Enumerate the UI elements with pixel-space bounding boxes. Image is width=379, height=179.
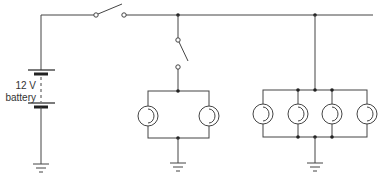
branch-switch (176, 15, 188, 91)
lamp-icon (357, 104, 377, 124)
lamp-icon (288, 104, 308, 124)
lamp-icon (138, 106, 158, 126)
battery-label: 12 V battery (0, 80, 36, 104)
main-switch (94, 4, 126, 17)
lamp-icon (253, 104, 273, 124)
lamp-icon (322, 104, 342, 124)
battery-name-label: battery (0, 92, 36, 104)
ground-icon-right-group (307, 163, 323, 171)
schematic-svg (0, 0, 379, 179)
ground-icon-left-group (170, 163, 186, 171)
battery-branch (28, 15, 96, 164)
ground-icon-battery (33, 164, 49, 172)
left-lamp-group (138, 89, 219, 163)
battery-voltage-label: 12 V (0, 80, 36, 92)
right-lamp-group (253, 15, 377, 163)
lamp-icon (199, 106, 219, 126)
circuit-diagram: 12 V battery (0, 0, 379, 179)
